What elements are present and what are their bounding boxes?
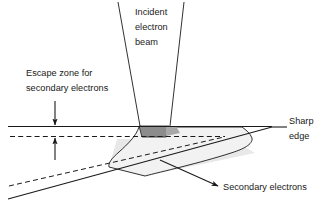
secondary-electrons-label: Secondary electrons <box>223 182 307 192</box>
sem-edge-effect-diagram: Incident electron beam Escape zone for s… <box>0 0 327 217</box>
diagram-canvas: Incident electron beam Escape zone for s… <box>0 0 327 217</box>
incident-beam-label: Incident electron beam <box>135 7 168 47</box>
incident-beam-label-line1: Incident <box>135 7 168 17</box>
sharp-edge-label-line1: Sharp <box>289 116 314 126</box>
sharp-edge-label-line2: edge <box>289 131 309 141</box>
incident-electron-beam-rays <box>118 2 184 126</box>
escape-zone-label-line2: secondary electrons <box>26 83 109 93</box>
sharp-edge-label: Sharp edge <box>289 116 314 141</box>
incident-beam-label-line2: electron <box>135 22 168 32</box>
incident-beam-label-line3: beam <box>135 37 158 47</box>
secondary-electrons-label-text: Secondary electrons <box>223 182 307 192</box>
escape-zone-label: Escape zone for secondary electrons <box>26 68 109 93</box>
escape-zone-label-line1: Escape zone for <box>26 68 92 78</box>
